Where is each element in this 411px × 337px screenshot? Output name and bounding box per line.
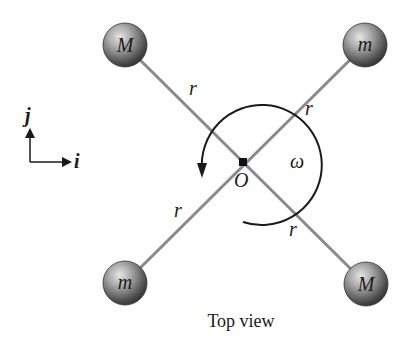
caption: Top view — [207, 311, 274, 331]
pivot-point — [239, 158, 247, 166]
j-axis-label: j — [22, 104, 31, 127]
radius-label-top-left: r — [189, 77, 197, 99]
radius-label-bottom-right: r — [289, 218, 297, 240]
mass-top-left: M — [103, 23, 147, 67]
mass-bottom-left: m — [103, 261, 147, 305]
mass-top-right: m — [343, 23, 387, 67]
i-axis-label: i — [74, 150, 80, 172]
mass-label: m — [358, 33, 372, 55]
mass-label: m — [118, 271, 132, 293]
radius-label-bottom-left: r — [174, 199, 182, 221]
rotation-arrowhead-icon — [197, 163, 207, 178]
omega-label: ω — [290, 150, 304, 172]
radius-label-top-right: r — [305, 97, 313, 119]
origin-label: O — [234, 169, 248, 191]
mass-label: M — [357, 273, 376, 295]
mass-label: M — [116, 34, 135, 56]
rotating-masses-diagram: M m m M r r r r O ω j i Top view — [0, 0, 411, 337]
coordinate-axes: j i — [22, 104, 80, 172]
mass-bottom-right: M — [344, 262, 388, 306]
